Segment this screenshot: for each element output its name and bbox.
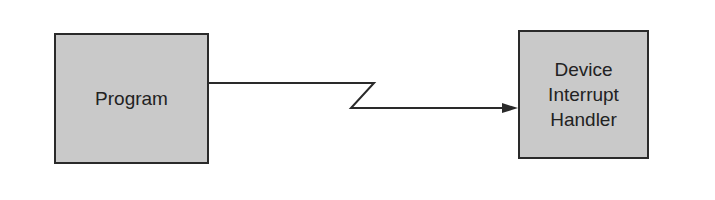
arrowhead-icon: [502, 103, 518, 113]
connector-arrow: [0, 0, 715, 200]
